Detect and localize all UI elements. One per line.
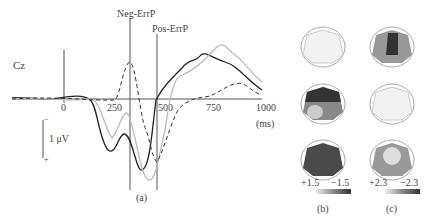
series-gray [12, 45, 262, 180]
caption-b: (b) [317, 203, 329, 215]
x-unit: (ms) [256, 118, 274, 130]
xtick: 250 [107, 102, 122, 113]
xtick: 0 [61, 102, 66, 113]
scale-minus: − [44, 115, 49, 124]
caption-c: (c) [386, 203, 397, 215]
pos-errp-label: Pos-ErrP [152, 23, 189, 34]
cbar-c-left: +2.3 [369, 177, 387, 188]
scale-plus: + [44, 155, 49, 164]
cbar-b-left: +1.5 [301, 177, 319, 188]
figure: Cz Neg-ErrP Pos-ErrP 0 250 500 750 1000 … [0, 0, 429, 216]
scale-label: 1 μV [49, 133, 70, 144]
topomaps-c: +2.3 −2.3 (c) [369, 27, 420, 215]
xtick: 1000 [256, 102, 276, 113]
colorbar-c [385, 189, 420, 194]
colorbar-b [316, 189, 351, 194]
xtick: 750 [206, 102, 221, 113]
neg-errp-label: Neg-ErrP [117, 8, 156, 19]
cbar-c-right: −2.3 [400, 177, 418, 188]
cbar-b-right: −1.5 [331, 177, 349, 188]
series-solid [12, 54, 262, 170]
caption-a: (a) [136, 192, 147, 204]
topomaps-b: +1.5 −1.5 (b) [301, 27, 351, 215]
xtick: 500 [158, 102, 173, 113]
erp-chart: Cz Neg-ErrP Pos-ErrP 0 250 500 750 1000 … [12, 8, 276, 204]
channel-label: Cz [13, 59, 25, 71]
